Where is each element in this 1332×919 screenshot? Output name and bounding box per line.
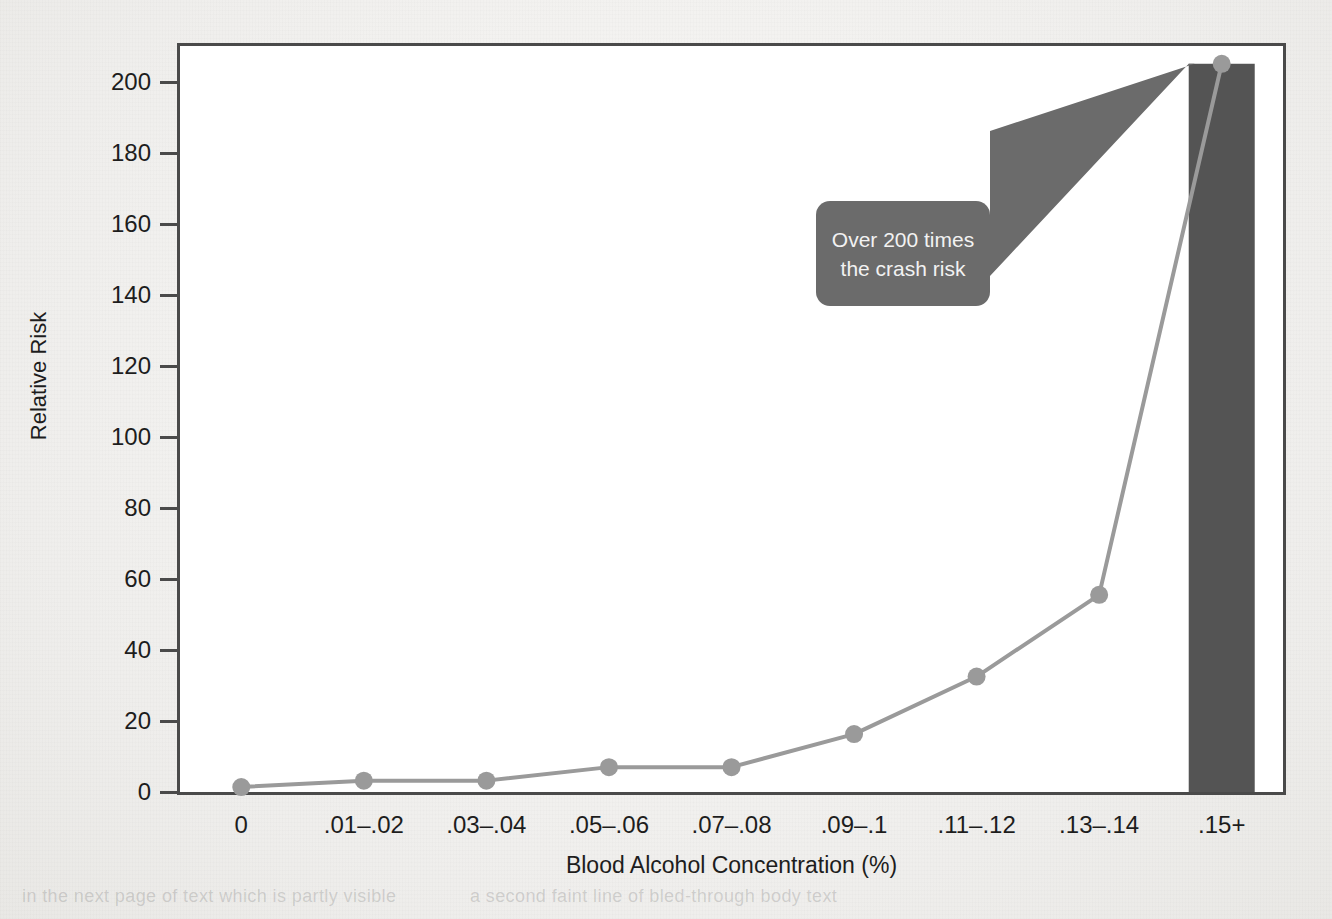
x-tick-label: .07–.08 <box>691 811 771 839</box>
callout-pointer <box>990 64 1195 276</box>
bleed-line-2: a second faint line of bled-through body… <box>470 886 837 907</box>
x-tick-label: .03–.04 <box>446 811 526 839</box>
x-axis-tick: .15+ <box>1198 795 1245 839</box>
data-point-marker-0 <box>232 778 250 796</box>
plot-area: Over 200 times the crash risk <box>180 46 1283 792</box>
y-tick-label: 40 <box>124 636 151 664</box>
y-tick-mark <box>160 791 177 794</box>
data-point-marker-4 <box>723 758 741 776</box>
data-point-marker-6 <box>968 668 986 686</box>
y-tick-mark <box>160 578 177 581</box>
x-axis-tick: .01–.02 <box>324 795 404 839</box>
x-axis-tick: 0 <box>235 795 248 839</box>
x-tick-label: .15+ <box>1198 811 1245 839</box>
y-tick-mark <box>160 507 177 510</box>
data-point-marker-5 <box>845 725 863 743</box>
y-tick-mark <box>160 81 177 84</box>
y-tick-mark <box>160 649 177 652</box>
y-tick-label: 60 <box>124 565 151 593</box>
y-tick-label: 80 <box>124 494 151 522</box>
y-tick-label: 160 <box>111 210 151 238</box>
y-tick-label: 20 <box>124 707 151 735</box>
y-tick-mark <box>160 436 177 439</box>
y-tick-mark <box>160 152 177 155</box>
page-bleed-through: in the next page of text which is partly… <box>0 872 1332 919</box>
y-tick-mark <box>160 223 177 226</box>
x-axis-tick: .03–.04 <box>446 795 526 839</box>
x-axis-tick: .11–.12 <box>937 795 1015 839</box>
x-tick-label: .11–.12 <box>937 811 1015 839</box>
scanned-page: Relative Risk 02040608010012014016018020… <box>0 0 1332 919</box>
data-point-marker-2 <box>477 772 495 790</box>
y-tick-label: 140 <box>111 281 151 309</box>
x-tick-label: .09–.1 <box>821 811 888 839</box>
x-axis-tick: .05–.06 <box>569 795 649 839</box>
x-axis-tick: .07–.08 <box>691 795 771 839</box>
y-tick-label: 200 <box>111 68 151 96</box>
x-tick-label: .05–.06 <box>569 811 649 839</box>
x-tick-label: 0 <box>235 811 248 839</box>
callout-pointer-wedge <box>990 64 1195 276</box>
chart-graphics <box>180 46 1283 792</box>
data-point-marker-7 <box>1090 586 1108 604</box>
y-axis-ticks: 020406080100120140160180200 <box>0 0 177 862</box>
x-tick-label: .13–.14 <box>1059 811 1139 839</box>
y-tick-label: 180 <box>111 139 151 167</box>
callout-annotation: Over 200 times the crash risk <box>816 201 990 306</box>
x-axis-tick: .09–.1 <box>821 795 888 839</box>
callout-line-1: Over 200 times <box>832 225 974 254</box>
figure-chart: Relative Risk 02040608010012014016018020… <box>0 0 1332 862</box>
x-axis-tick: .13–.14 <box>1059 795 1139 839</box>
data-point-marker-8 <box>1213 55 1231 73</box>
data-point-marker-1 <box>355 772 373 790</box>
bleed-line-1: in the next page of text which is partly… <box>22 886 396 907</box>
callout-line-2: the crash risk <box>841 254 966 283</box>
y-tick-mark <box>160 720 177 723</box>
x-tick-label: .01–.02 <box>324 811 404 839</box>
y-tick-mark <box>160 365 177 368</box>
y-tick-mark <box>160 294 177 297</box>
y-tick-label: 120 <box>111 352 151 380</box>
bar-group <box>1189 64 1255 792</box>
y-tick-label: 100 <box>111 423 151 451</box>
data-point-marker-3 <box>600 758 618 776</box>
highlight-bar <box>1189 64 1255 792</box>
